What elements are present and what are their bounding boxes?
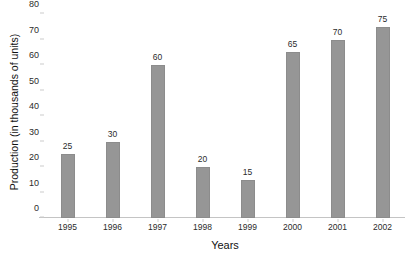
bar-value-label: 65	[288, 39, 297, 49]
y-axis-tick-mark	[40, 89, 44, 90]
y-axis-tick-mark	[40, 140, 44, 141]
y-axis-tick-label: 30	[29, 127, 39, 137]
bar-group[interactable]: 65	[270, 14, 315, 218]
bar-value-label: 75	[378, 14, 387, 24]
bar-chart: Production (in thousands of units) 01020…	[0, 0, 410, 262]
bar[interactable]	[286, 52, 300, 218]
x-axis-tick-label: 2001	[315, 222, 360, 232]
bar[interactable]	[106, 142, 120, 219]
y-axis-tick-mark	[40, 13, 44, 14]
x-axis-tick-label: 2000	[270, 222, 315, 232]
y-axis-tick-mark	[40, 64, 44, 65]
chart-title-cutoff	[0, 0, 410, 3]
bar-group[interactable]: 25	[45, 14, 90, 218]
x-axis-title: Years	[45, 239, 405, 251]
bar-group[interactable]: 30	[90, 14, 135, 218]
y-axis-tick-label: 10	[29, 178, 39, 188]
bar-group[interactable]: 15	[225, 14, 270, 218]
x-axis-tick-label: 2002	[360, 222, 405, 232]
bar[interactable]	[151, 65, 165, 218]
bar-value-label: 25	[63, 141, 72, 151]
y-axis-title: Production (in thousands of units)	[8, 14, 20, 210]
bar[interactable]	[376, 27, 390, 218]
y-axis-tick-mark	[40, 115, 44, 116]
bar[interactable]	[241, 180, 255, 218]
y-axis-tick-mark	[40, 191, 44, 192]
y-axis-tick-label: 60	[29, 50, 39, 60]
x-axis-tick-labels: 19951996199719981999200020012002	[45, 222, 405, 236]
bar-value-label: 20	[198, 154, 207, 164]
y-axis-tick-mark	[40, 217, 44, 218]
y-axis-tick-mark	[40, 166, 44, 167]
x-axis-tick-label: 1997	[135, 222, 180, 232]
y-axis-tick-label: 80	[29, 0, 39, 9]
y-axis-tick-label: 50	[29, 76, 39, 86]
plot-area: 01020304050607080 2530602015657075	[45, 14, 405, 218]
bar[interactable]	[61, 154, 75, 218]
bar-group[interactable]: 75	[360, 14, 405, 218]
bar-value-label: 70	[333, 27, 342, 37]
y-axis-tick-label: 20	[29, 152, 39, 162]
y-axis-tick-label: 70	[29, 25, 39, 35]
bar[interactable]	[331, 40, 345, 219]
bar[interactable]	[196, 167, 210, 218]
bar-group[interactable]: 70	[315, 14, 360, 218]
y-axis-tick-label: 0	[34, 203, 39, 213]
x-axis-tick-label: 1995	[45, 222, 90, 232]
bar-value-label: 15	[243, 167, 252, 177]
bar-series: 2530602015657075	[45, 14, 405, 218]
y-axis-tick-mark	[40, 38, 44, 39]
x-axis-tick-label: 1996	[90, 222, 135, 232]
bar-group[interactable]: 20	[180, 14, 225, 218]
x-axis-tick-label: 1998	[180, 222, 225, 232]
y-axis-tick-label: 40	[29, 101, 39, 111]
x-axis-tick-label: 1999	[225, 222, 270, 232]
bar-value-label: 60	[153, 52, 162, 62]
bar-group[interactable]: 60	[135, 14, 180, 218]
bar-value-label: 30	[108, 129, 117, 139]
